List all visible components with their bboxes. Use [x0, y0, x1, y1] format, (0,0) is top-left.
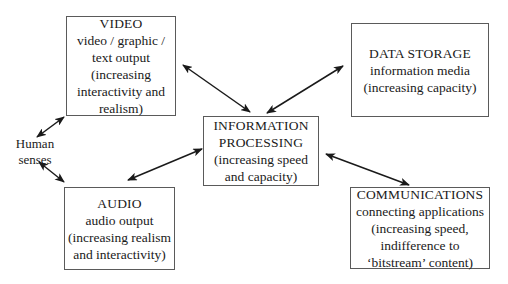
node-processing-line: and capacity) — [225, 168, 297, 185]
node-information-processing: INFORMATION PROCESSING (increasing speed… — [203, 116, 319, 186]
node-video: VIDEO video / graphic / text output (inc… — [66, 16, 176, 116]
node-data-storage: DATA STORAGE information media (increasi… — [351, 23, 489, 117]
arrow-audio-processing — [128, 149, 202, 180]
node-communications-line: ‘bitstream’ content) — [367, 254, 473, 271]
arrow-storage-processing — [267, 66, 343, 113]
node-communications: COMMUNICATIONS connecting applications (… — [350, 187, 490, 269]
node-video-line: text output — [92, 49, 150, 66]
node-audio-line: (increasing realism — [68, 229, 171, 246]
human-senses-line: Human — [10, 136, 60, 152]
node-video-line: interactivity and — [77, 83, 165, 100]
node-communications-line: (increasing speed, — [371, 220, 468, 237]
arrow-communications-processing — [326, 154, 409, 185]
node-audio: AUDIO audio output (increasing realism a… — [64, 187, 175, 270]
node-processing-title: INFORMATION — [213, 117, 308, 134]
node-audio-line: audio output — [86, 212, 154, 229]
node-processing-line: (increasing speed — [214, 151, 308, 168]
node-data-storage-line: (increasing capacity) — [364, 79, 477, 96]
node-video-line: video / graphic / — [77, 32, 165, 49]
node-processing-title: PROCESSING — [219, 134, 304, 151]
node-data-storage-line: information media — [370, 62, 470, 79]
node-video-line: (increasing — [91, 66, 151, 83]
node-communications-line: connecting applications — [356, 203, 484, 220]
node-video-title: VIDEO — [100, 15, 143, 32]
node-communications-title: COMMUNICATIONS — [357, 186, 484, 203]
node-video-line: realism) — [99, 100, 143, 117]
human-senses-label: Human senses — [10, 136, 60, 168]
human-senses-line: senses — [10, 152, 60, 168]
arrow-senses-video — [37, 117, 64, 137]
node-data-storage-title: DATA STORAGE — [369, 45, 471, 62]
node-communications-line: indifference to — [381, 237, 460, 254]
arrow-video-processing — [183, 65, 250, 112]
node-audio-line: and interactivity) — [73, 246, 166, 263]
node-audio-title: AUDIO — [97, 195, 142, 212]
